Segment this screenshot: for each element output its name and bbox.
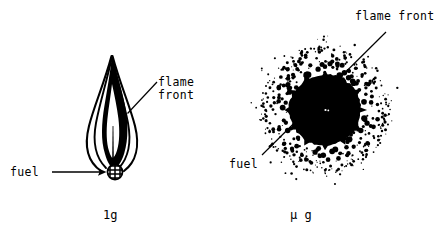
- label-fuel-left: fuel: [10, 166, 39, 179]
- label-flame-front-right: flame front: [355, 10, 434, 23]
- label-flame-front-left-line2: front: [158, 88, 194, 102]
- caption-microgravity: µ g: [290, 209, 312, 222]
- label-flame-front-left: flamefront: [158, 76, 194, 102]
- diagram-canvas: [0, 0, 444, 235]
- figure-root: flamefront fuel 1g flame front fuel µ g: [0, 0, 444, 235]
- caption-normal-gravity: 1g: [103, 209, 117, 222]
- panel-normal-gravity: [52, 55, 157, 181]
- panel-microgravity: [251, 32, 399, 185]
- flame-front-leader-left: [128, 82, 158, 114]
- label-flame-front-left-line1: flame: [158, 75, 194, 89]
- label-fuel-right: fuel: [229, 158, 258, 171]
